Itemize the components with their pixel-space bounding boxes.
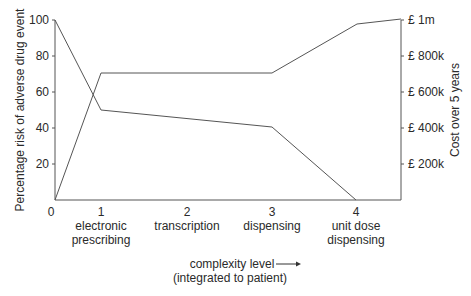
category-label-electronic: electronic <box>75 219 126 233</box>
x-tick-0: 0 <box>48 205 55 219</box>
tick-label-100: 100 <box>29 13 49 27</box>
x-tick-4: 4 <box>353 205 360 219</box>
tick-label-200k: £ 200k <box>408 157 445 171</box>
left-axis-title: Percentage risk of adverse drug event <box>13 8 27 211</box>
series-risk-line <box>55 20 356 200</box>
series-cost-line <box>55 19 401 200</box>
category-label-unit-dose: unit dose <box>332 219 381 233</box>
x-axis-title-line2: (integrated to patient) <box>173 271 287 285</box>
tick-label-80: 80 <box>36 49 50 63</box>
x-tick-1: 1 <box>98 205 105 219</box>
category-label-transcription: transcription <box>154 219 219 233</box>
x-axis-title-line1: complexity level <box>190 257 275 271</box>
x-tick-2: 2 <box>184 205 191 219</box>
tick-label-400k: £ 400k <box>408 121 445 135</box>
x-tick-3: 3 <box>269 205 276 219</box>
tick-label-40: 40 <box>36 121 50 135</box>
category-label-prescribing: prescribing <box>72 233 131 247</box>
left-tick-labels: 20 40 60 80 100 <box>29 13 49 171</box>
tick-label-800k: £ 800k <box>408 49 445 63</box>
category-label-dispensing: dispensing <box>243 219 300 233</box>
tick-label-20: 20 <box>36 157 50 171</box>
tick-label-600k: £ 600k <box>408 85 445 99</box>
tick-label-60: 60 <box>36 85 50 99</box>
right-axis-title: Cost over 5 years <box>448 63 462 157</box>
tick-label-1m: £ 1m <box>408 13 435 27</box>
right-tick-labels: £ 200k £ 400k £ 600k £ 800k £ 1m <box>408 13 445 171</box>
category-label-unit-dose-dispensing: dispensing <box>327 233 384 247</box>
arrow-right-icon <box>276 262 301 267</box>
dual-axis-line-chart: 20 40 60 80 100 £ 200k £ 400k £ 600k £ 8… <box>0 0 471 296</box>
